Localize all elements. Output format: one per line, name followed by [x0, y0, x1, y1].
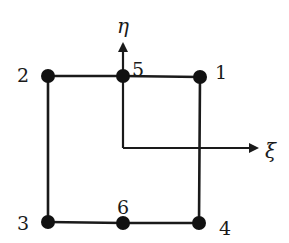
node-label-5: 5	[132, 58, 144, 80]
node-3	[41, 215, 55, 229]
node-1	[193, 70, 207, 84]
node-2	[41, 69, 55, 83]
node-label-4: 4	[219, 217, 231, 239]
xi-axis-label: ξ	[265, 139, 277, 163]
node-label-1: 1	[215, 61, 227, 83]
node-6	[116, 216, 130, 230]
edge-6-3	[48, 222, 123, 223]
node-label-3: 3	[17, 212, 29, 234]
element-diagram: 1 2 3 4 5 6 η ξ	[0, 0, 289, 243]
eta-axis-label: η	[117, 14, 129, 38]
node-label-6: 6	[117, 196, 129, 218]
edge-1-4	[199, 77, 200, 223]
node-4	[192, 216, 206, 230]
node-label-2: 2	[17, 64, 29, 86]
node-5	[116, 69, 130, 83]
